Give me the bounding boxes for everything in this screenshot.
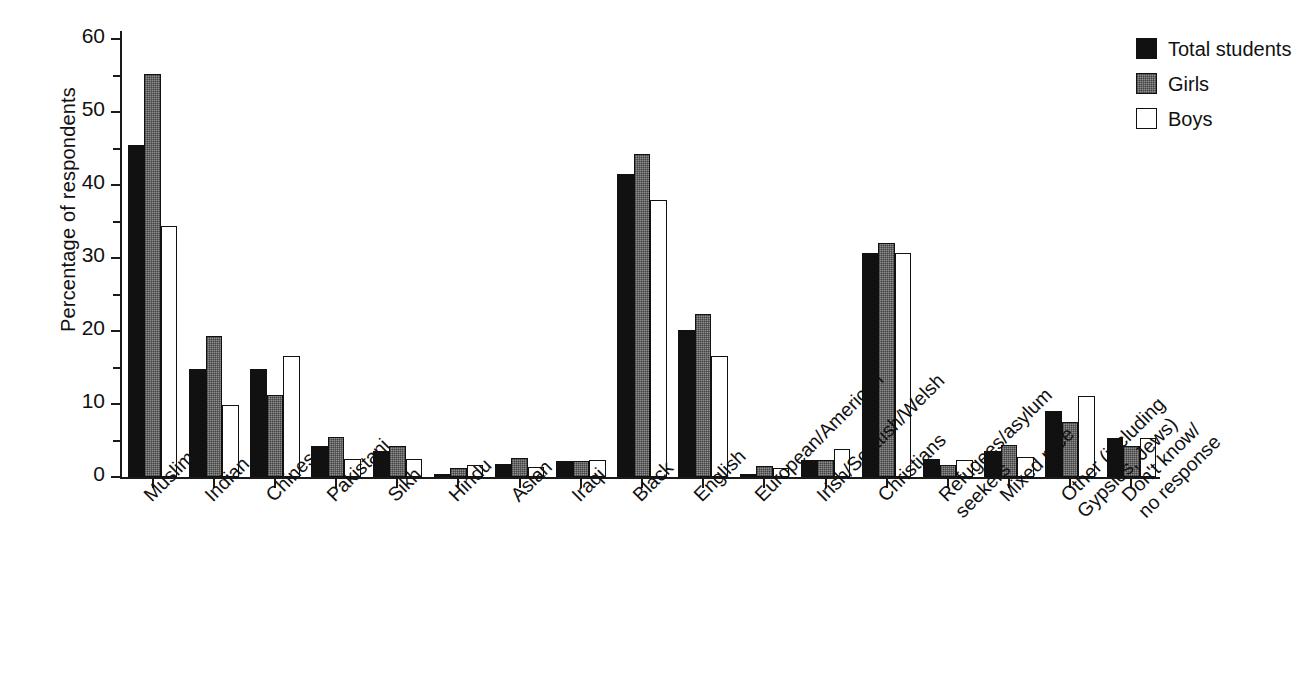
bar xyxy=(695,314,712,477)
y-axis-tick-label: 40 xyxy=(82,171,105,193)
y-axis-tick-label: 60 xyxy=(82,25,105,47)
y-axis-tick-label: 20 xyxy=(82,317,105,339)
bar-group xyxy=(556,31,606,477)
y-axis-tick-label: 10 xyxy=(82,390,105,412)
x-axis-labels: MuslimIndianChinesePakistaniSikhHinduAsi… xyxy=(120,480,1300,678)
legend-item: Girls xyxy=(1136,66,1300,101)
y-axis-tick: 30 xyxy=(111,257,120,259)
bar-group xyxy=(434,31,484,477)
y-axis-tick: 60 xyxy=(111,38,120,40)
bar-group xyxy=(189,31,239,477)
bar xyxy=(634,154,651,477)
chart-legend: Total studentsGirlsBoys xyxy=(1136,31,1300,136)
bar xyxy=(678,330,695,477)
legend-item-label: Total students xyxy=(1168,38,1291,60)
bar xyxy=(128,145,145,477)
plot-area: 0102030405060 xyxy=(120,31,1160,477)
y-axis-line xyxy=(120,31,122,477)
y-axis-minor-tick xyxy=(113,367,120,369)
legend-swatch-girls xyxy=(1136,73,1157,94)
legend-item-label: Girls xyxy=(1168,73,1209,95)
y-axis-minor-tick xyxy=(113,440,120,442)
y-axis-tick: 10 xyxy=(111,403,120,405)
bar xyxy=(267,395,284,477)
y-axis-minor-tick xyxy=(113,221,120,223)
bar xyxy=(495,464,512,477)
bar xyxy=(206,336,223,477)
y-axis-tick-label: 30 xyxy=(82,244,105,266)
bar xyxy=(650,200,667,477)
bar-chart: Percentage of respondents 0102030405060 … xyxy=(0,0,1300,678)
y-axis-title: Percentage of respondents xyxy=(57,60,80,360)
legend-item-label: Boys xyxy=(1168,108,1212,130)
legend-item: Total students xyxy=(1136,31,1300,66)
y-axis-tick: 40 xyxy=(111,184,120,186)
legend-swatch-total xyxy=(1136,38,1157,59)
bar xyxy=(250,369,267,477)
legend-item: Boys xyxy=(1136,101,1300,136)
y-axis-tick: 20 xyxy=(111,330,120,332)
bar-group xyxy=(311,31,361,477)
bar-group xyxy=(617,31,667,477)
y-axis-minor-tick xyxy=(113,294,120,296)
bar-group xyxy=(740,31,790,477)
y-axis-tick-label: 50 xyxy=(82,98,105,120)
bar-group xyxy=(923,31,973,477)
y-axis-tick: 50 xyxy=(111,111,120,113)
y-axis-tick: 0 xyxy=(111,476,120,478)
bar-group xyxy=(128,31,178,477)
bar xyxy=(161,226,178,477)
bar-group xyxy=(373,31,423,477)
bar xyxy=(895,253,912,477)
bar xyxy=(740,474,757,477)
bar xyxy=(434,474,451,477)
bar-group xyxy=(495,31,545,477)
bar xyxy=(556,461,573,477)
bar xyxy=(144,74,161,477)
bar xyxy=(617,174,634,477)
bar-group xyxy=(250,31,300,477)
y-axis-minor-tick xyxy=(113,148,120,150)
y-axis-minor-tick xyxy=(113,75,120,77)
bar-group xyxy=(678,31,728,477)
y-axis-tick-label: 0 xyxy=(93,463,105,485)
legend-swatch-boys xyxy=(1136,108,1157,129)
